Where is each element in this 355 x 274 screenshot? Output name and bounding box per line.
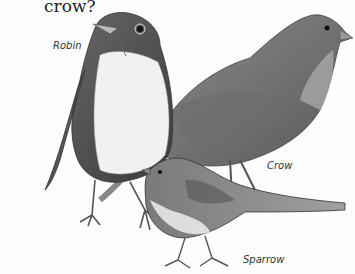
robin-label: Robin <box>53 40 82 51</box>
bird-illustration: crow? Robin Crow Sparrow <box>0 0 355 274</box>
crow-label: Crow <box>267 160 292 171</box>
question-text: crow? <box>44 0 96 16</box>
sparrow-label: Sparrow <box>243 254 284 265</box>
sparrow-figure <box>142 158 345 268</box>
